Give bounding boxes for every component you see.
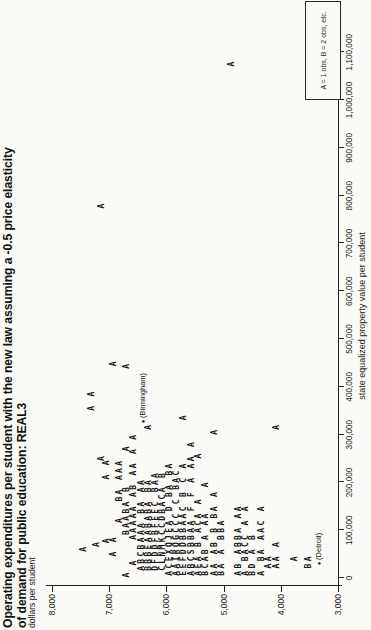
x-axis-title: state equalized property value per stude…: [357, 46, 367, 586]
scatter-row-segment: A: [202, 480, 210, 487]
legend-text: A = 1 obs, B = 2 obs, etc.: [320, 11, 327, 89]
y-tick-mark: [52, 586, 53, 592]
scatter-row-segment: BCAB A AA: [202, 511, 210, 575]
y-tick-mark: [281, 586, 282, 592]
scatter-row-segment: A: [273, 423, 281, 430]
x-tick-mark: [338, 195, 344, 196]
y-axis-title: dollars per student: [27, 557, 37, 628]
x-tick-mark: [338, 338, 344, 339]
y-tick-label: 6,000: [161, 594, 171, 626]
scatter-row-segment: AA A: [273, 540, 281, 569]
y-tick-label: 5,000: [219, 594, 229, 626]
scatter-row-segment: BD A B: [249, 533, 257, 576]
y-tick-label: 8,000: [47, 594, 57, 626]
legend-box: A = 1 obs, B = 2 obs, etc.: [305, 1, 341, 100]
y-tick-mark: [166, 586, 167, 592]
x-tick-mark: [338, 434, 344, 435]
annotation-point-marker: ●: [140, 418, 146, 423]
y-axis-line: [46, 585, 342, 586]
scanned-chart-page: Operating expenditures per student with …: [0, 0, 371, 630]
y-tick-mark: [224, 586, 225, 592]
y-tick-label: 3,000: [333, 594, 343, 626]
x-tick-mark: [338, 290, 344, 291]
scatter-row-segment: A: [211, 427, 219, 434]
y-tick-label: 4,000: [276, 594, 286, 626]
scatter-row-segment: A: [291, 554, 299, 561]
chart-landscape-canvas: Operating expenditures per student with …: [0, 0, 371, 630]
scatter-row-segment: A: [228, 59, 236, 66]
annotation-label: ● (Detroit): [314, 533, 323, 565]
x-tick-mark: [338, 529, 344, 530]
annotation-label: ● (Birmingham): [138, 373, 147, 423]
y-tick-label: 7,000: [104, 594, 114, 626]
x-tick-mark: [338, 147, 344, 148]
scatter-row-segment: A A: [103, 458, 111, 479]
scatter-row-segment: A: [80, 545, 88, 552]
scatter-row-segment: A: [93, 540, 101, 547]
y-tick-mark: [338, 586, 339, 592]
scatter-row-segment: BA: [305, 554, 313, 568]
x-tick-mark: [338, 577, 344, 578]
scatter-row-segment: A: [110, 359, 118, 366]
scatter-row-segment: A: [145, 423, 153, 430]
scatter-row-segment: A: [180, 413, 188, 420]
scatter-row-segment: A: [123, 570, 131, 577]
y-tick-mark: [109, 586, 110, 592]
scatter-row-segment: A A: [110, 535, 118, 556]
x-tick-label: 1,100,000: [345, 22, 354, 82]
scatter-row-segment: A: [98, 201, 106, 208]
scatter-row-segment: A: [123, 362, 131, 369]
x-tick-mark: [338, 242, 344, 243]
annotation-point-marker: ●: [315, 560, 321, 565]
x-tick-mark: [338, 481, 344, 482]
chart-title-line1: Operating expenditures per student with …: [2, 147, 15, 628]
x-axis-line: [338, 46, 339, 586]
scatter-row-segment: A A: [88, 389, 96, 410]
scatter-row-segment: BA A BBA: [218, 518, 226, 575]
scatter-row-segment: A: [195, 451, 203, 458]
x-tick-mark: [338, 386, 344, 387]
